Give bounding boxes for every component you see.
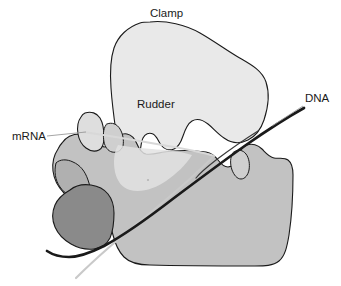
label-dna: DNA: [305, 92, 330, 104]
cleft-dot-mark: [147, 179, 149, 181]
label-rudder: Rudder: [137, 98, 175, 110]
diagram-canvas: Clamp Rudder mRNA DNA: [0, 0, 341, 286]
transcription-complex-figure: Clamp Rudder mRNA DNA: [0, 0, 341, 286]
label-mrna: mRNA: [12, 130, 46, 142]
label-clamp: Clamp: [150, 7, 183, 19]
